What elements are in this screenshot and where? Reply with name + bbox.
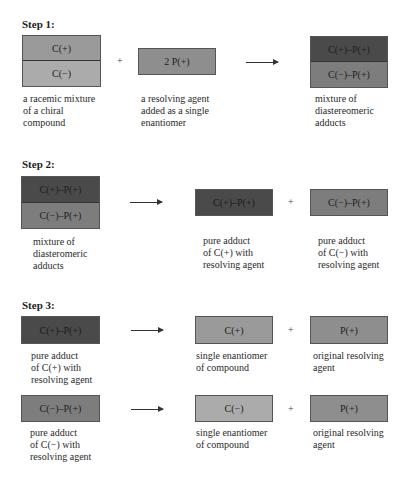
racemic-caption: a racemic mixture of a chiral compound: [23, 93, 95, 129]
plus-sign: +: [288, 403, 294, 414]
resolving-agent-caption: a resolving agent added as a single enan…: [141, 93, 209, 129]
racemic-mixture-box: C(+) C(−): [22, 35, 101, 87]
c-minus-layer: C(−): [23, 61, 100, 86]
step-2-title: Step 2:: [22, 158, 55, 170]
pure-cminus-adduct-box: C(−)–P(+): [310, 189, 388, 216]
cplus-adduct-box: C(+)–P(+): [21, 316, 100, 344]
diastereomeric-adducts-box: C(+)–P(+) C(−)–P(+): [310, 36, 388, 88]
pure-cminus-adduct-caption: pure adduct of C(−) with resolving agent: [318, 235, 379, 271]
resolving-agent-box: P(+): [310, 316, 388, 344]
resolving-agent-caption: original resolving agent: [313, 427, 384, 451]
cminus-enantiomer-box: C(−): [195, 395, 273, 422]
step-3-title: Step 3:: [22, 299, 55, 311]
step-1-title: Step 1:: [22, 18, 55, 30]
cplus-adduct-caption: pure adduct of C(+) with resolving agent: [31, 350, 92, 386]
c-plus-layer: C(+): [23, 36, 100, 61]
plus-sign: +: [288, 324, 294, 335]
resolving-agent-box: 2 P(+): [138, 48, 216, 75]
pure-cplus-adduct-box: C(+)–P(+): [195, 189, 273, 216]
cplus-enantiomer-box: C(+): [195, 316, 273, 344]
reaction-arrow-icon: [130, 202, 162, 203]
cplus-pplus-layer: C(+)–P(+): [22, 177, 99, 203]
cplus-enantiomer-caption: single enantiomer of compound: [196, 350, 267, 374]
cminus-adduct-caption: pure adduct of C(−) with resolving agent: [30, 427, 91, 463]
cminus-pplus-layer: C(−)–P(+): [22, 203, 99, 229]
plus-sign: +: [288, 196, 294, 207]
mixture-caption: mixture of diasteromeric adducts: [33, 236, 87, 272]
cminus-enantiomer-caption: single enantiomer of compound: [196, 427, 267, 451]
pure-cplus-adduct-caption: pure adduct of C(+) with resolving agent: [203, 235, 264, 271]
cplus-pplus-layer: C(+)–P(+): [311, 37, 387, 62]
reaction-arrow-icon: [131, 409, 163, 410]
plus-sign: +: [117, 55, 123, 66]
cminus-adduct-box: C(−)–P(+): [21, 395, 100, 422]
diastereomeric-caption: mixture of diastereomeric adducts: [315, 93, 374, 129]
reaction-arrow-icon: [131, 330, 163, 331]
reaction-arrow-icon: [246, 62, 278, 63]
diastereomeric-mixture-box: C(+)–P(+) C(−)–P(+): [21, 176, 100, 229]
resolving-agent-caption: original resolving agent: [313, 350, 384, 374]
cminus-pplus-layer: C(−)–P(+): [311, 62, 387, 87]
resolving-agent-box: P(+): [310, 395, 388, 422]
